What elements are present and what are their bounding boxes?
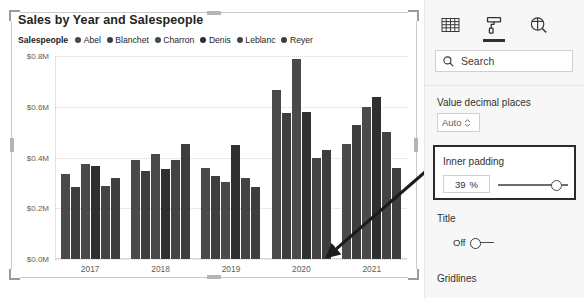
- gridlines-section-label: Gridlines: [437, 273, 476, 284]
- y-axis-tick-label: $0.6M: [27, 102, 49, 111]
- gridline: [55, 259, 407, 260]
- bar-denis-2021[interactable]: [372, 97, 381, 259]
- value-decimal-places-label: Value decimal places: [437, 97, 531, 108]
- bar-leblanc-2017[interactable]: [101, 186, 110, 259]
- y-axis-tick-label: $0.2M: [27, 204, 49, 213]
- bar-charron-2018[interactable]: [151, 154, 160, 259]
- title-toggle[interactable]: Off: [453, 237, 494, 248]
- y-axis-tick-label: $0.0M: [27, 255, 49, 264]
- legend-swatch-icon: [200, 37, 206, 43]
- bar-denis-2017[interactable]: [91, 166, 100, 259]
- bar-blanchet-2020[interactable]: [282, 113, 291, 259]
- bar-leblanc-2019[interactable]: [241, 178, 250, 259]
- legend-item-label: Charron: [163, 35, 194, 45]
- resize-handle-left[interactable]: [10, 138, 14, 152]
- chart-title: Sales by Year and Salespeople: [18, 13, 203, 27]
- search-input[interactable]: Search: [435, 50, 573, 72]
- x-axis-tick-label: 2018: [151, 264, 170, 274]
- bar-reyer-2017[interactable]: [111, 178, 120, 259]
- x-axis-tick-label: 2020: [292, 264, 311, 274]
- search-placeholder-text: Search: [461, 55, 494, 67]
- title-toggle-state: Off: [453, 237, 466, 248]
- slider-thumb[interactable]: [551, 180, 562, 191]
- toggle-knob[interactable]: [470, 238, 481, 249]
- legend-item-reyer[interactable]: Reyer: [281, 35, 312, 45]
- bar-leblanc-2021[interactable]: [382, 132, 391, 259]
- bar-reyer-2018[interactable]: [181, 144, 190, 259]
- tab-fields[interactable]: [437, 12, 463, 38]
- bar-charron-2019[interactable]: [221, 182, 230, 259]
- legend-item-label: Leblanc: [245, 35, 275, 45]
- tab-analytics[interactable]: [525, 12, 551, 38]
- legend-item-charron[interactable]: Charron: [155, 35, 195, 45]
- legend-item-abel[interactable]: Abel: [75, 35, 101, 45]
- legend-title: Salespeople: [18, 35, 68, 45]
- value-decimal-places-stepper[interactable]: Auto: [437, 113, 480, 132]
- bar-blanchet-2019[interactable]: [211, 176, 220, 259]
- bar-group-2020: 2020: [266, 56, 336, 259]
- bar-abel-2019[interactable]: [201, 168, 210, 259]
- pane-divider-top: [425, 85, 584, 86]
- legend-item-leblanc[interactable]: Leblanc: [237, 35, 276, 45]
- inner-padding-label: Inner padding: [443, 156, 504, 167]
- inner-padding-slider[interactable]: [498, 184, 568, 186]
- value-decimal-places-value: Auto: [442, 117, 462, 128]
- bar-blanchet-2021[interactable]: [352, 125, 361, 259]
- report-canvas: Sales by Year and Salespeople Salespeopl…: [0, 0, 424, 298]
- bar-charron-2021[interactable]: [362, 107, 371, 259]
- bar-leblanc-2018[interactable]: [171, 160, 180, 259]
- resize-handle-top-right[interactable]: [408, 10, 419, 21]
- bar-abel-2018[interactable]: [131, 160, 140, 259]
- bar-group-2019: 2019: [196, 56, 266, 259]
- bar-reyer-2020[interactable]: [322, 150, 331, 259]
- legend-item-blanchet[interactable]: Blanchet: [107, 35, 149, 45]
- y-axis-tick-label: $0.8M: [27, 52, 49, 61]
- legend-swatch-icon: [281, 37, 287, 43]
- legend-swatch-icon: [155, 37, 161, 43]
- y-axis-tick-label: $0.4M: [27, 153, 49, 162]
- resize-handle-top[interactable]: [207, 11, 221, 15]
- x-axis-tick-label: 2021: [362, 264, 381, 274]
- bar-abel-2021[interactable]: [342, 144, 351, 259]
- bar-blanchet-2017[interactable]: [71, 187, 80, 259]
- tab-format[interactable]: [481, 12, 507, 38]
- title-section-label: Title: [437, 213, 456, 224]
- bar-abel-2020[interactable]: [272, 90, 281, 259]
- bar-reyer-2019[interactable]: [251, 187, 260, 259]
- bar-charron-2017[interactable]: [81, 164, 90, 259]
- resize-handle-bottom-right[interactable]: [408, 269, 419, 280]
- inner-padding-unit: %: [470, 179, 478, 190]
- legend-item-label: Reyer: [290, 35, 313, 45]
- legend-item-label: Blanchet: [115, 35, 148, 45]
- bar-group-2018: 2018: [125, 56, 195, 259]
- inner-padding-value: 39: [455, 179, 466, 190]
- pane-tab-strip: [425, 12, 584, 38]
- bar-blanchet-2018[interactable]: [141, 171, 150, 259]
- resize-handle-right[interactable]: [414, 138, 418, 152]
- resize-handle-bottom-left[interactable]: [9, 269, 20, 280]
- legend-swatch-icon: [237, 37, 243, 43]
- bar-leblanc-2020[interactable]: [312, 158, 321, 260]
- x-axis-tick-label: 2019: [222, 264, 241, 274]
- bar-denis-2020[interactable]: [302, 112, 311, 259]
- bar-reyer-2021[interactable]: [392, 168, 401, 259]
- toggle-switch-icon[interactable]: [470, 238, 494, 248]
- bar-denis-2018[interactable]: [161, 169, 170, 259]
- legend-item-label: Denis: [209, 35, 231, 45]
- bar-abel-2017[interactable]: [61, 174, 70, 259]
- bar-denis-2019[interactable]: [231, 145, 240, 259]
- bar-group-2021: 2021: [337, 56, 407, 259]
- search-icon: [443, 56, 454, 67]
- legend-swatch-icon: [107, 37, 113, 43]
- resize-handle-bottom[interactable]: [207, 275, 221, 279]
- chart-plot-area: $0.8M$0.6M$0.4M$0.2M$0.0M201720182019202…: [55, 56, 407, 259]
- legend-item-denis[interactable]: Denis: [200, 35, 230, 45]
- stepper-arrows-icon[interactable]: [464, 118, 471, 128]
- x-axis-tick-label: 2017: [81, 264, 100, 274]
- inner-padding-input[interactable]: 39 %: [443, 175, 490, 193]
- format-pane: Search Value decimal places Auto Inner p…: [424, 0, 584, 298]
- chart-legend[interactable]: Salespeople AbelBlanchetCharronDenisLebl…: [18, 35, 319, 45]
- legend-item-label: Abel: [84, 35, 101, 45]
- bar-charron-2020[interactable]: [292, 59, 301, 259]
- legend-swatch-icon: [75, 37, 81, 43]
